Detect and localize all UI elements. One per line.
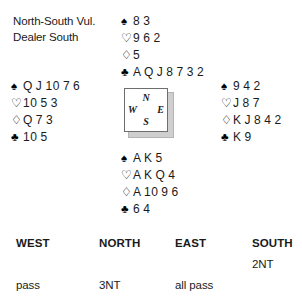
hand-west-hearts-row: ♡ 10 5 3 xyxy=(11,95,80,112)
diamond-suit-icon: ♢ xyxy=(121,184,133,201)
hand-west-diamonds: Q 7 3 xyxy=(23,112,53,129)
hand-north-diamonds: 5 xyxy=(133,47,140,64)
diamond-suit-icon: ♢ xyxy=(121,47,133,64)
hand-south-clubs-row: ♣ 6 4 xyxy=(121,201,179,218)
auction-header-north: NORTH xyxy=(99,236,140,251)
hand-north: ♠ 8 3 ♡ 9 6 2 ♢ 5 ♣ A Q J 8 7 3 2 xyxy=(121,13,204,81)
hand-east-hearts-row: ♡ J 8 7 xyxy=(221,95,282,112)
compass-west-label: W xyxy=(128,105,137,115)
spade-suit-icon: ♠ xyxy=(121,150,133,167)
compass-east-label: E xyxy=(157,105,164,115)
club-suit-icon: ♣ xyxy=(121,64,133,81)
auction-bid-east: all pass xyxy=(175,278,213,293)
heart-suit-icon: ♡ xyxy=(221,95,233,112)
hand-east-spades-row: ♠ 9 4 2 xyxy=(221,78,282,95)
hand-east-clubs-row: ♣ K 9 xyxy=(221,129,282,146)
auction-bid-south: 2NT xyxy=(252,257,273,272)
hand-west-clubs-row: ♣ 10 5 xyxy=(11,129,80,146)
hand-east-diamonds-row: ♢ K J 8 4 2 xyxy=(221,112,282,129)
compass-north-label: N xyxy=(125,93,167,103)
hand-east-clubs: K 9 xyxy=(233,129,252,146)
heart-suit-icon: ♡ xyxy=(121,167,133,184)
hand-west-spades: Q J 10 7 6 xyxy=(23,78,80,95)
hand-west: ♠ Q J 10 7 6 ♡ 10 5 3 ♢ Q 7 3 ♣ 10 5 xyxy=(11,78,80,146)
hand-south-spades: A K 5 xyxy=(133,150,163,167)
spade-suit-icon: ♠ xyxy=(121,13,133,30)
hand-north-clubs: A Q J 8 7 3 2 xyxy=(133,64,204,81)
compass-box-frame: N W E S xyxy=(124,88,168,132)
hand-south-hearts: A K Q 4 xyxy=(133,167,176,184)
bridge-deal-diagram: North-South Vul. Dealer South ♠ 8 3 ♡ 9 … xyxy=(0,0,302,300)
hand-south: ♠ A K 5 ♡ A K Q 4 ♢ A 10 9 6 ♣ 6 4 xyxy=(121,150,179,218)
hand-east: ♠ 9 4 2 ♡ J 8 7 ♢ K J 8 4 2 ♣ K 9 xyxy=(221,78,282,146)
dealer-label: Dealer South xyxy=(13,29,95,45)
heart-suit-icon: ♡ xyxy=(121,30,133,47)
hand-south-hearts-row: ♡ A K Q 4 xyxy=(121,167,179,184)
hand-east-diamonds: K J 8 4 2 xyxy=(233,112,282,129)
auction-header-west: WEST xyxy=(16,236,50,251)
auction-header-south: SOUTH xyxy=(252,236,293,251)
hand-east-spades: 9 4 2 xyxy=(233,78,261,95)
compass-south-label: S xyxy=(125,117,167,127)
hand-south-clubs: 6 4 xyxy=(133,201,150,218)
hand-west-diamonds-row: ♢ Q 7 3 xyxy=(11,112,80,129)
auction-row: 2NT xyxy=(0,257,302,278)
auction-row: pass 3NT all pass xyxy=(0,278,302,299)
club-suit-icon: ♣ xyxy=(221,129,233,146)
spade-suit-icon: ♠ xyxy=(11,78,23,95)
auction-header-row: WEST NORTH EAST SOUTH xyxy=(0,236,302,257)
hand-north-hearts: 9 6 2 xyxy=(133,30,161,47)
auction-header-east: EAST xyxy=(175,236,206,251)
heart-suit-icon: ♡ xyxy=(11,95,23,112)
auction-bid-north: 3NT xyxy=(99,278,120,293)
deal-conditions: North-South Vul. Dealer South xyxy=(13,13,95,45)
compass-box: N W E S xyxy=(124,88,172,136)
hand-north-spades: 8 3 xyxy=(133,13,150,30)
club-suit-icon: ♣ xyxy=(121,201,133,218)
hand-south-spades-row: ♠ A K 5 xyxy=(121,150,179,167)
club-suit-icon: ♣ xyxy=(11,129,23,146)
hand-north-hearts-row: ♡ 9 6 2 xyxy=(121,30,204,47)
auction-bid-west: pass xyxy=(16,278,40,293)
hand-north-clubs-row: ♣ A Q J 8 7 3 2 xyxy=(121,64,204,81)
hand-east-hearts: J 8 7 xyxy=(233,95,260,112)
diamond-suit-icon: ♢ xyxy=(221,112,233,129)
spade-suit-icon: ♠ xyxy=(221,78,233,95)
hand-north-spades-row: ♠ 8 3 xyxy=(121,13,204,30)
auction-table: WEST NORTH EAST SOUTH 2NT pass 3NT all p… xyxy=(0,236,302,299)
diamond-suit-icon: ♢ xyxy=(11,112,23,129)
hand-west-clubs: 10 5 xyxy=(23,129,48,146)
hand-south-diamonds-row: ♢ A 10 9 6 xyxy=(121,184,179,201)
hand-west-hearts: 10 5 3 xyxy=(23,95,58,112)
hand-south-diamonds: A 10 9 6 xyxy=(133,184,179,201)
hand-west-spades-row: ♠ Q J 10 7 6 xyxy=(11,78,80,95)
hand-north-diamonds-row: ♢ 5 xyxy=(121,47,204,64)
vulnerability-label: North-South Vul. xyxy=(13,13,95,29)
